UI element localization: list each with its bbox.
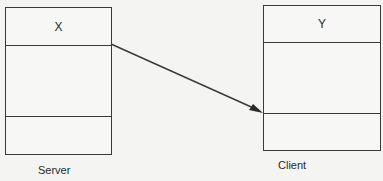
arrow-connector <box>0 0 383 181</box>
arrowhead-icon <box>249 104 263 113</box>
